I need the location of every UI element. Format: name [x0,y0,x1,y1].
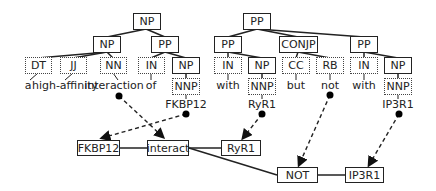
word-interaction: interaction [84,80,144,91]
tree-node-np-root: NP [133,13,161,30]
tree-node-np-2: NP [172,57,200,74]
tree-tag-rb: RB [316,57,344,74]
tree-tag-nn: NN [100,57,127,74]
word-a: a [25,80,32,91]
tree-tag-cc: CC [282,57,310,74]
word-fkbp12: FKBP12 [165,99,207,110]
word-ip3r1: IP3R1 [382,99,414,110]
graph-node-ryr1: RyR1 [221,140,261,156]
word-with-1: with [216,80,239,91]
diagram-edges [0,0,436,191]
graph-node-fkbp12: FKBP12 [77,140,120,156]
graph-node-interact: interact [147,140,189,156]
tree-tag-in: IN [138,57,165,74]
tree-tag-dt: DT [25,57,52,74]
word-but: but [287,80,305,91]
word-with-2: with [352,80,375,91]
tree-node-np: NP [93,36,121,53]
tree-node-np-3: NP [248,57,276,74]
tree-tag-nnp: NNP [172,78,200,95]
tree-tag-in-1: IN [214,57,242,74]
tree-node-pp-root: PP [243,13,271,30]
tree-tag-nnp-1: NNP [248,78,276,95]
tree-tag-jj: JJ [60,57,87,74]
word-ryr1: RyR1 [248,99,276,110]
tree-node-pp-2: PP [350,36,378,53]
tree-tag-in-2: IN [350,57,378,74]
tree-tag-nnp-2: NNP [384,78,412,95]
graph-node-not: NOT [277,167,318,183]
graph-node-ip3r1: IP3R1 [345,167,384,183]
tree-node-np-4: NP [384,57,412,74]
tree-node-conjp: CONJP [279,36,318,53]
tree-node-pp: PP [151,36,179,53]
tree-node-pp-1: PP [214,36,242,53]
word-not: not [321,80,339,91]
word-of: of [146,80,157,91]
